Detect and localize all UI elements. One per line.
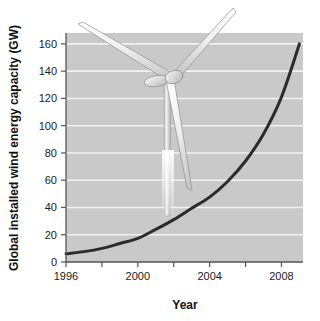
y-tick-label: 60 [45,174,57,186]
x-axis-tick-labels: 1996200020042008 [54,270,294,282]
y-axis-tick-labels: 020406080100120140160 [39,38,57,268]
x-tick-label: 2000 [126,270,150,282]
x-tick-label: 2004 [197,270,221,282]
turbine-tower-fade [162,150,174,220]
y-tick-label: 0 [51,256,57,268]
x-axis-ticks [66,262,281,267]
y-tick-label: 140 [39,65,57,77]
x-axis-title: Year [172,298,198,312]
x-tick-label: 2008 [269,270,293,282]
y-axis-title: Global installed wind energy capacity (G… [7,25,21,271]
y-tick-label: 40 [45,201,57,213]
y-axis-ticks [61,44,66,262]
x-tick-label: 1996 [54,270,78,282]
y-tick-label: 160 [39,38,57,50]
y-tick-label: 80 [45,147,57,159]
y-tick-label: 20 [45,229,57,241]
y-tick-label: 100 [39,120,57,132]
wind-capacity-chart-figure: 020406080100120140160 1996200020042008 G… [0,0,320,321]
y-tick-label: 120 [39,92,57,104]
chart-canvas: 020406080100120140160 1996200020042008 G… [0,0,320,321]
